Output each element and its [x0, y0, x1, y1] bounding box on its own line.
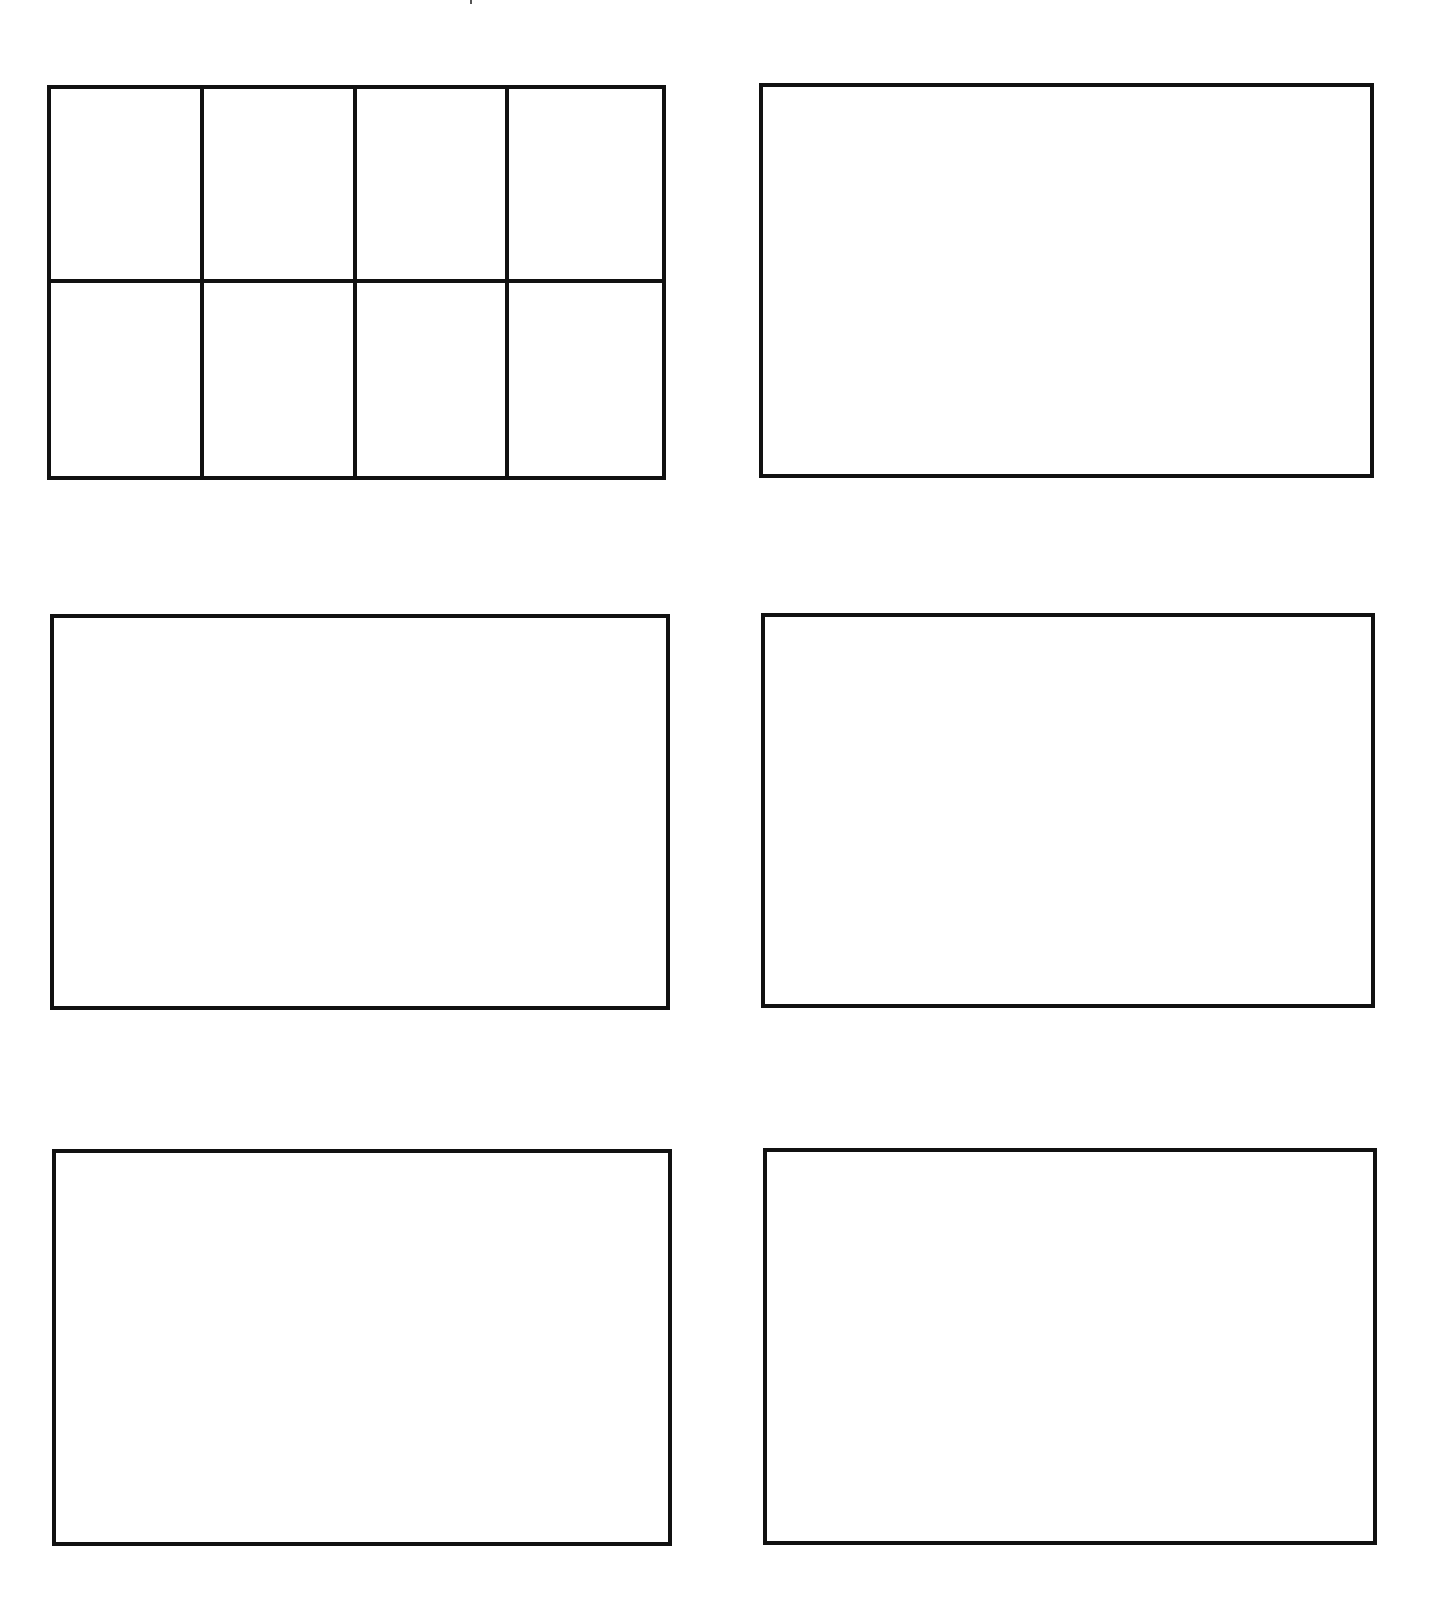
- scan-speck: [470, 0, 472, 4]
- grid-cell: [509, 89, 662, 283]
- grid-cell: [51, 283, 204, 477]
- empty-box-bottom-right: [763, 1148, 1377, 1545]
- grid-box-4x2: [47, 85, 666, 480]
- grid-cell: [357, 283, 510, 477]
- empty-box-middle-right: [761, 613, 1375, 1008]
- grid-cell: [204, 89, 357, 283]
- grid-cell: [357, 89, 510, 283]
- empty-box-top-right: [759, 83, 1374, 478]
- empty-box-middle-left: [50, 614, 670, 1010]
- grid-cell: [204, 283, 357, 477]
- grid-cell: [51, 89, 204, 283]
- grid-cell: [509, 283, 662, 477]
- empty-box-bottom-left: [52, 1149, 672, 1546]
